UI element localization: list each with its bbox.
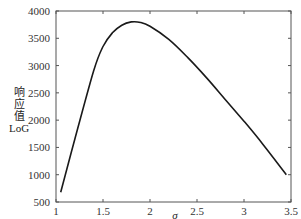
axis-ticks: 11.522.533.55001000150020002500300035004… [28, 5, 298, 217]
y-axis-label-line: LoG [4, 122, 34, 134]
y-tick-label: 1500 [28, 141, 51, 153]
y-axis-label-line: 值 [4, 110, 34, 122]
y-axis-label: 响 应 值 LoG [4, 86, 34, 134]
x-tick-label: 3 [241, 205, 247, 217]
y-tick-label: 1000 [28, 169, 51, 181]
x-axis-label: σ [172, 209, 178, 219]
plot-frame [56, 11, 291, 202]
y-tick-label: 3500 [28, 32, 51, 44]
x-tick-label: 3.5 [284, 205, 298, 217]
y-axis-label-line: 响 [4, 86, 34, 98]
data-series-line [61, 22, 287, 193]
series-path [61, 22, 287, 193]
x-tick-label: 1.5 [96, 205, 110, 217]
y-axis-label-line: 应 [4, 98, 34, 110]
x-tick-label: 1 [53, 205, 59, 217]
line-chart: 11.522.533.55001000150020002500300035004… [0, 0, 301, 219]
y-tick-label: 4000 [28, 5, 51, 17]
y-tick-label: 3000 [28, 60, 51, 72]
x-tick-label: 2 [147, 205, 153, 217]
x-tick-label: 2.5 [190, 205, 204, 217]
plot-area [56, 11, 291, 202]
y-tick-label: 500 [34, 196, 51, 208]
